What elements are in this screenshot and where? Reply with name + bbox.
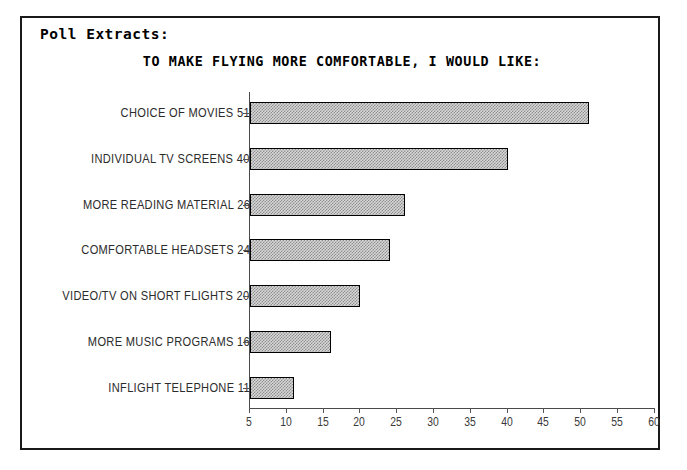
bar bbox=[250, 331, 331, 353]
bar bbox=[250, 285, 360, 307]
bar-row: COMFORTABLE HEADSETS 24% bbox=[22, 239, 662, 261]
x-axis-tick bbox=[286, 408, 287, 413]
bar-chart-plot: CHOICE OF MOVIES 51%INDIVIDUAL TV SCREEN… bbox=[22, 18, 662, 452]
bar-category-label: INFLIGHT TELEPHONE 11% bbox=[108, 377, 260, 399]
bar-row: CHOICE OF MOVIES 51% bbox=[22, 102, 662, 124]
bar-category-label: COMFORTABLE HEADSETS 24% bbox=[81, 239, 260, 261]
bar bbox=[250, 239, 390, 261]
bar bbox=[250, 377, 294, 399]
x-axis-tick-label: 35 bbox=[458, 414, 482, 429]
bar-category-label: MORE MUSIC PROGRAMS 16% bbox=[88, 331, 260, 353]
bar-row: INFLIGHT TELEPHONE 11% bbox=[22, 377, 662, 399]
bar-category-tick bbox=[243, 250, 249, 251]
bar-category-tick bbox=[243, 342, 249, 343]
bar-category-label: MORE READING MATERIAL 26% bbox=[83, 194, 260, 216]
x-axis-tick-label: 25 bbox=[384, 414, 408, 429]
x-axis-tick bbox=[507, 408, 508, 413]
x-axis-tick-label: 40 bbox=[495, 414, 519, 429]
x-axis-tick-label: 60 bbox=[642, 414, 666, 429]
bar-row: INDIVIDUAL TV SCREENS 40% bbox=[22, 148, 662, 170]
bar-category-tick bbox=[243, 296, 249, 297]
bar-category-tick bbox=[243, 159, 249, 160]
x-axis-tick-label: 20 bbox=[347, 414, 371, 429]
x-axis-tick bbox=[580, 408, 581, 413]
bar-category-tick bbox=[243, 113, 249, 114]
x-axis-tick bbox=[249, 408, 250, 413]
chart-frame: Poll Extracts: TO MAKE FLYING MORE COMFO… bbox=[20, 16, 660, 450]
bar bbox=[250, 148, 508, 170]
bar-row: MORE MUSIC PROGRAMS 16% bbox=[22, 331, 662, 353]
bar-row: VIDEO/TV ON SHORT FLIGHTS 20% bbox=[22, 285, 662, 307]
bar bbox=[250, 194, 405, 216]
x-axis-tick-label: 10 bbox=[274, 414, 298, 429]
poll-extracts-page: Poll Extracts: TO MAKE FLYING MORE COMFO… bbox=[0, 0, 687, 470]
bar-category-label: INDIVIDUAL TV SCREENS 40% bbox=[91, 148, 260, 170]
x-axis-tick-label: 5 bbox=[237, 414, 261, 429]
x-axis-tick bbox=[433, 408, 434, 413]
x-axis-tick bbox=[654, 408, 655, 413]
bar-category-label: VIDEO/TV ON SHORT FLIGHTS 20% bbox=[63, 285, 260, 307]
x-axis-tick-label: 50 bbox=[568, 414, 592, 429]
x-axis-tick-label: 45 bbox=[531, 414, 555, 429]
bar-category-tick bbox=[243, 205, 249, 206]
x-axis-tick-label: 30 bbox=[421, 414, 445, 429]
bar-category-label: CHOICE OF MOVIES 51% bbox=[121, 102, 260, 124]
x-axis-tick bbox=[617, 408, 618, 413]
x-axis-tick bbox=[359, 408, 360, 413]
x-axis-line bbox=[249, 408, 654, 409]
x-axis-tick bbox=[396, 408, 397, 413]
x-axis-tick-label: 55 bbox=[605, 414, 629, 429]
x-axis-tick-label: 15 bbox=[311, 414, 335, 429]
bar bbox=[250, 102, 589, 124]
bar-category-tick bbox=[243, 388, 249, 389]
x-axis-tick bbox=[323, 408, 324, 413]
x-axis-tick bbox=[543, 408, 544, 413]
bar-row: MORE READING MATERIAL 26% bbox=[22, 194, 662, 216]
x-axis-tick bbox=[470, 408, 471, 413]
